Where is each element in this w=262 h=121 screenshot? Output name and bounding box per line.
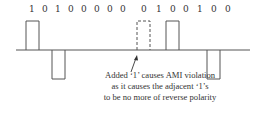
caption-line-3: to be no more of reverse polarity [60, 92, 260, 103]
bit-sequence: 1 0 1 0 0 0 0 0 0 1 0 0 1 0 0 [29, 4, 231, 14]
bit-label: 0 [225, 4, 231, 14]
caption-line-1: Added ‘1’ causes AMI violation [60, 70, 260, 81]
bit-label: 0 [170, 4, 176, 14]
bit-label: 1 [197, 4, 203, 14]
positive-pulse [166, 21, 179, 50]
caption-line-2: as it causes the adjacent ‘1’s [60, 81, 260, 92]
added-violation-pulse [137, 21, 150, 50]
bit-label: 0 [107, 4, 113, 14]
bit-label: 0 [120, 4, 126, 14]
bit-label: 1 [55, 4, 61, 14]
bit-label: 0 [141, 4, 147, 14]
annotation-caption: Added ‘1’ causes AMI violation as it cau… [60, 70, 260, 103]
bit-label: 0 [68, 4, 74, 14]
bit-label: 1 [156, 4, 162, 14]
positive-pulse [26, 21, 39, 50]
bit-label: 0 [183, 4, 189, 14]
bit-label: 0 [94, 4, 100, 14]
bit-label: 0 [42, 4, 48, 14]
bit-label: 0 [211, 4, 217, 14]
bit-label: 0 [81, 4, 87, 14]
bit-label: 1 [29, 4, 35, 14]
